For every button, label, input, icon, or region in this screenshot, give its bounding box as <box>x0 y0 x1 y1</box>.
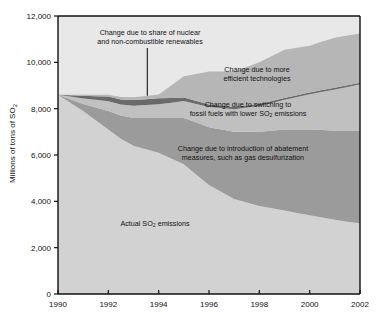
x-tick-label: 1996 <box>200 300 218 309</box>
x-tick-label: 1998 <box>250 300 268 309</box>
x-tick-label: 2000 <box>301 300 319 309</box>
y-tick-label: 12,000 <box>27 12 52 21</box>
annotation-nuclear-renewables: Change due to share of nuclearand non-co… <box>0 28 338 46</box>
y-tick-label: 8,000 <box>31 105 52 114</box>
y-tick-label: 6,000 <box>31 151 52 160</box>
x-tick-label: 1992 <box>99 300 117 309</box>
x-tick-label: 2002 <box>351 300 369 309</box>
y-tick-label: 10,000 <box>27 58 52 67</box>
y-tick-label: 4,000 <box>31 197 52 206</box>
annotation-abatement-measures: Change due to introduction of abatementm… <box>55 144 376 162</box>
chart-canvas: 02,0004,0006,0008,00010,00012,0001990199… <box>0 0 376 324</box>
y-axis-label: Millions of tons of SO2 <box>8 79 17 209</box>
x-tick-label: 1990 <box>49 300 67 309</box>
y-tick-label: 2,000 <box>31 244 52 253</box>
x-tick-label: 1994 <box>150 300 168 309</box>
annotation-actual-emissions: Actual SO2 emissions <box>0 219 343 228</box>
chart-figure: Millions of tons of SO2 02,0004,0006,000… <box>0 0 376 324</box>
annotation-efficient-technologies: Change due to moreefficient technologies <box>69 65 376 83</box>
annotation-fuel-switching: Change due to switching tofossil fuels w… <box>60 100 376 118</box>
y-tick-label: 0 <box>47 290 52 299</box>
